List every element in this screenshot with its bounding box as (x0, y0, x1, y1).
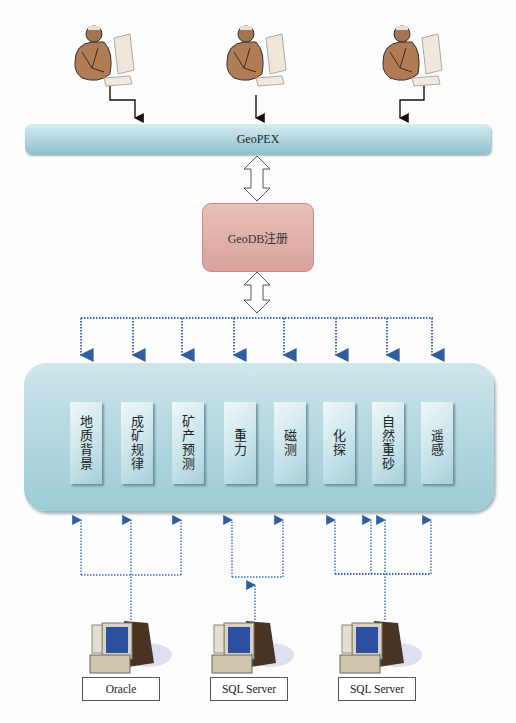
module-metallogenic-regularity: 成矿规律 (121, 402, 153, 484)
database-label: SQL Server (222, 683, 276, 695)
bottom-dotted-connectors (81, 520, 431, 620)
module-label: 矿产预测 (179, 415, 198, 471)
double-arrow-geopex-geodb (244, 156, 270, 201)
module-geochemical: 化探 (323, 402, 355, 484)
module-magnetic: 磁测 (274, 402, 306, 484)
geodb-label: GeoDB注册 (228, 229, 289, 247)
database-label: Oracle (106, 683, 137, 695)
database-label: SQL Server (350, 683, 404, 695)
module-label: 化探 (330, 429, 349, 457)
server-computer-icon (88, 617, 178, 677)
database-label-sqlserver-2: SQL Server (338, 677, 416, 701)
user-at-computer-icon (222, 22, 292, 92)
module-label: 重力 (231, 429, 250, 457)
module-mineral-prediction: 矿产预测 (172, 402, 204, 484)
database-label-sqlserver-1: SQL Server (210, 677, 288, 701)
user-workstation-1 (70, 22, 140, 102)
module-remote-sensing: 遥感 (421, 402, 453, 484)
module-label: 遥感 (428, 429, 447, 457)
user-at-computer-icon (70, 22, 140, 92)
connector-layer (0, 0, 516, 723)
module-geological-background: 地质背景 (70, 402, 102, 484)
server-computer-icon (210, 617, 300, 677)
server-computer-icon (338, 617, 428, 677)
geopex-label: GeoPEX (237, 132, 280, 147)
user-workstation-2 (222, 22, 292, 102)
module-label: 磁测 (281, 429, 300, 457)
double-arrow-geodb-bus (244, 272, 270, 313)
module-label: 地质背景 (77, 415, 96, 471)
geodb-registry-box: GeoDB注册 (202, 203, 314, 272)
geopex-bar: GeoPEX (25, 124, 491, 154)
module-gravity: 重力 (224, 402, 256, 484)
database-label-oracle: Oracle (82, 677, 160, 701)
user-workstation-3 (378, 22, 448, 102)
user-at-computer-icon (378, 22, 448, 92)
module-label: 成矿规律 (128, 415, 147, 471)
module-heavy-minerals: 自然重砂 (372, 402, 404, 484)
top-dotted-bus (81, 318, 433, 355)
module-label: 自然重砂 (379, 415, 398, 471)
